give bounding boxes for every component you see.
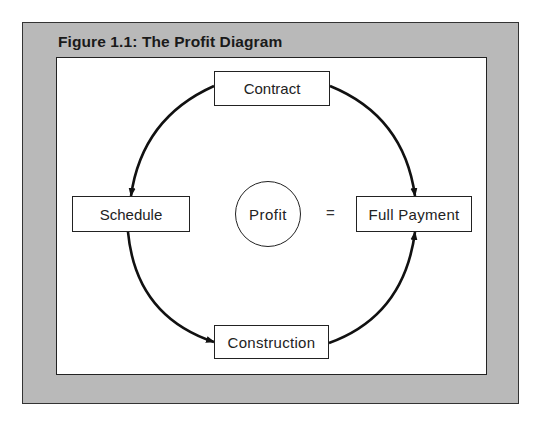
equals-sign: =: [326, 204, 335, 221]
arrow-contract-to-full-payment: [330, 86, 415, 196]
node-construction: Construction: [214, 325, 329, 359]
arrow-schedule-to-construction: [128, 232, 214, 342]
node-profit-circle: Profit: [235, 181, 301, 247]
arrow-contract-to-schedule: [131, 86, 214, 196]
node-contract: Contract: [214, 71, 330, 106]
arrow-construction-to-full-payment: [329, 232, 415, 343]
node-full-payment: Full Payment: [356, 196, 472, 232]
node-schedule: Schedule: [72, 196, 190, 232]
